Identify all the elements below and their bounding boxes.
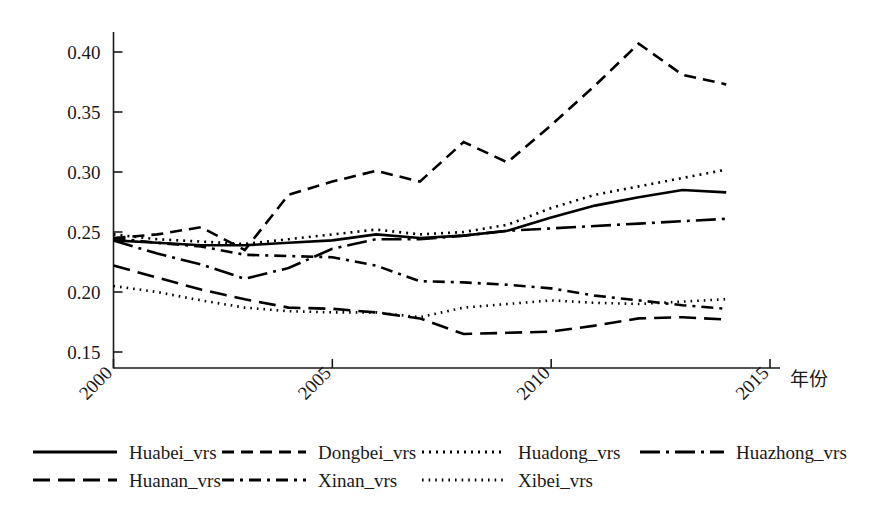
series-line-huabei-vrs	[114, 190, 727, 245]
legend-label-xinan-vrs: Xinan_vrs	[318, 470, 397, 491]
x-axis-ticks: 2000200520102015	[75, 359, 773, 404]
line-chart: 0.150.200.250.300.350.40 200020052010201…	[0, 0, 874, 509]
y-tick-label: 0.15	[67, 342, 100, 363]
legend-label-xibei-vrs: Xibei_vrs	[518, 470, 593, 491]
y-tick-label: 0.20	[67, 282, 100, 303]
y-tick-label: 0.35	[67, 102, 100, 123]
series-line-huazhong-vrs	[114, 219, 727, 279]
series-line-dongbei-vrs	[114, 44, 727, 250]
x-axis-title: 年份	[790, 369, 828, 390]
legend-label-huabei-vrs: Huabei_vrs	[129, 442, 217, 463]
y-tick-label: 0.30	[67, 162, 100, 183]
chart-legend: Huabei_vrsDongbei_vrsHuadong_vrsHuazhong…	[33, 442, 847, 491]
series-line-huanan-vrs	[114, 266, 727, 334]
legend-label-huadong-vrs: Huadong_vrs	[518, 442, 620, 463]
legend-label-huanan-vrs: Huanan_vrs	[129, 470, 221, 491]
data-series	[114, 44, 727, 334]
chart-figure: 0.150.200.250.300.350.40 200020052010201…	[0, 0, 874, 509]
legend-label-dongbei-vrs: Dongbei_vrs	[318, 442, 416, 463]
legend-label-huazhong-vrs: Huazhong_vrs	[736, 442, 847, 463]
series-line-xinan-vrs	[114, 238, 727, 309]
y-tick-label: 0.25	[67, 222, 100, 243]
series-line-xibei-vrs	[114, 286, 727, 317]
x-tick-label: 2000	[75, 362, 117, 404]
y-tick-label: 0.40	[67, 42, 100, 63]
